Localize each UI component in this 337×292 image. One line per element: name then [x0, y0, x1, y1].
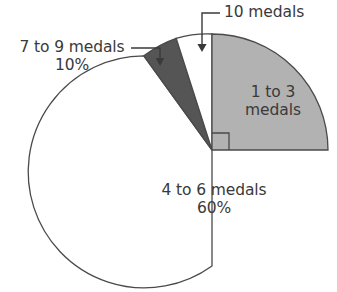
pie-label-10-medals: 10 medals [224, 3, 304, 21]
pie-label-1-to-3-medals: 1 to 3 medals [233, 83, 313, 120]
pie-label-7-to-9-medals-percent: 10% [8, 56, 136, 74]
pie-label-4-to-6-medals: 4 to 6 medals 60% [134, 181, 294, 218]
pie-label-10-medals-text: 10 medals [224, 3, 304, 21]
pie-label-1-to-3-medals-line2: medals [233, 101, 313, 119]
pie-chart-figure: 10 medals 7 to 9 medals 10% 1 to 3 medal… [0, 0, 337, 292]
pie-label-4-to-6-medals-text: 4 to 6 medals [161, 181, 266, 199]
pie-label-1-to-3-medals-line1: 1 to 3 [251, 83, 296, 101]
pie-label-7-to-9-medals-text: 7 to 9 medals [19, 38, 124, 56]
pie-label-4-to-6-medals-percent: 60% [134, 199, 294, 217]
pie-label-7-to-9-medals: 7 to 9 medals 10% [8, 38, 136, 75]
